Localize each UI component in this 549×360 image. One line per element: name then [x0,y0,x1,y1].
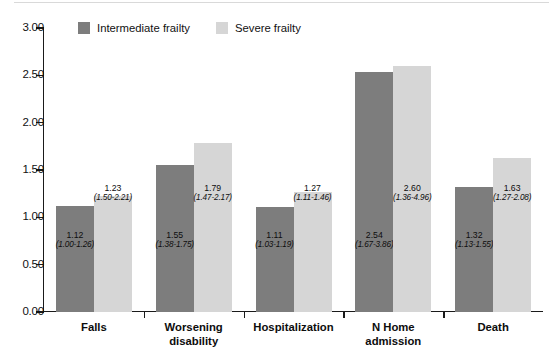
bar-value-label: 2.60(1.36-4.96) [393,183,431,203]
y-tick-label: 1.50 [10,163,44,175]
bar-value: 1.32 [455,230,493,240]
plot-area: 1.12(1.00-1.26)1.23(1.50-2.21)1.55(1.38-… [44,28,543,312]
category-label: Falls [44,320,144,334]
category-label-line: disability [144,334,244,348]
bar-severe-frailty: 2.60(1.36-4.96) [393,66,431,312]
bar-value-label: 2.54(1.67-3.86) [355,230,393,250]
scan-artifact-line [14,2,549,3]
bar-value: 2.60 [393,183,431,193]
bar-confidence-interval: (1.13-1.55) [455,240,493,250]
bar-chart-figure: Intermediate frailtySevere frailty 0.000… [0,0,549,360]
y-tick-label: 2.00 [10,116,44,128]
bar-confidence-interval: (1.27-2.08) [493,193,531,203]
bar-confidence-interval: (1.03-1.19) [255,240,293,250]
x-tick-mark [343,312,344,318]
bar-confidence-interval: (1.38-1.75) [155,240,193,250]
bar-value: 1.55 [155,230,193,240]
bar-value: 1.12 [56,230,94,240]
bar-value-label: 1.63(1.27-2.08) [493,183,531,203]
bar-value-label: 1.11(1.03-1.19) [255,230,293,250]
category-label-line: admission [343,334,443,348]
category-label-line: Hospitalization [244,320,344,334]
bar-severe-frailty: 1.27(1.11-1.46) [294,192,332,312]
x-tick-mark [443,312,444,318]
category-label-line: Death [443,320,543,334]
x-tick-mark [144,312,145,318]
bar-confidence-interval: (1.00-1.26) [56,240,94,250]
bar-intermediate-frailty: 1.11(1.03-1.19) [256,207,294,312]
y-tick-label: 2.50 [10,68,44,80]
category-label-line: N Home [343,320,443,334]
bar-intermediate-frailty: 2.54(1.67-3.86) [355,72,393,312]
bar-intermediate-frailty: 1.32(1.13-1.55) [455,187,493,312]
bar-value: 2.54 [355,230,393,240]
bar-confidence-interval: (1.36-4.96) [393,193,431,203]
bar-value-label: 1.55(1.38-1.75) [155,230,193,250]
category-label: Worseningdisability [144,320,244,348]
bar-value-label: 1.27(1.11-1.46) [294,183,332,203]
bar-confidence-interval: (1.11-1.46) [294,193,332,203]
bar-confidence-interval: (1.50-2.21) [94,193,132,203]
category-label-line: Worsening [144,320,244,334]
y-tick-label: 0.00 [10,305,44,317]
bar-confidence-interval: (1.67-3.86) [355,240,393,250]
bar-value: 1.63 [493,183,531,193]
category-label: Death [443,320,543,334]
bar-value: 1.79 [193,183,231,193]
bar-value: 1.23 [94,183,132,193]
y-tick-label: 3.00 [10,21,44,33]
y-tick-label: 0.50 [10,258,44,270]
bar-value: 1.11 [255,230,293,240]
bar-severe-frailty: 1.63(1.27-2.08) [493,158,531,312]
bar-value: 1.27 [294,183,332,193]
bar-confidence-interval: (1.47-2.17) [193,193,231,203]
x-tick-mark [244,312,245,318]
category-label: N Homeadmission [343,320,443,348]
category-label: Hospitalization [244,320,344,334]
bar-intermediate-frailty: 1.55(1.38-1.75) [156,165,194,312]
bar-intermediate-frailty: 1.12(1.00-1.26) [56,206,94,312]
category-label-line: Falls [44,320,144,334]
bar-value-label: 1.12(1.00-1.26) [56,230,94,250]
bar-value-label: 1.79(1.47-2.17) [193,183,231,203]
bar-value-label: 1.23(1.50-2.21) [94,183,132,203]
y-tick-label: 1.00 [10,210,44,222]
bar-value-label: 1.32(1.13-1.55) [455,230,493,250]
bar-severe-frailty: 1.79(1.47-2.17) [194,143,232,312]
bar-severe-frailty: 1.23(1.50-2.21) [94,196,132,312]
